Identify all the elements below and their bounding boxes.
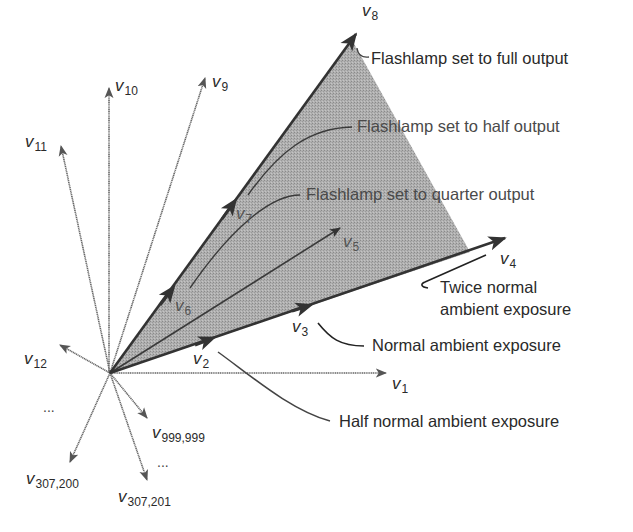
label-v8: v8 <box>362 2 378 22</box>
label-v1: v1 <box>392 375 408 395</box>
label-v2: v2 <box>193 350 209 370</box>
annotation-normal: Normal ambient exposure <box>372 335 561 356</box>
annotation-twice-normal-line1: Twice normal <box>440 277 537 298</box>
label-v5: v5 <box>343 233 359 253</box>
annotation-twice-normal-line2: ambient exposure <box>440 299 571 320</box>
ellipsis-left: ... <box>43 400 55 414</box>
label-v6: v6 <box>175 297 191 317</box>
normal-leader <box>318 323 364 346</box>
annotation-half-normal: Half normal ambient exposure <box>339 411 559 432</box>
label-v307201: v307,201 <box>118 488 171 508</box>
label-v11: v11 <box>25 133 47 153</box>
label-v4: v4 <box>500 250 516 270</box>
label-v3: v3 <box>292 318 308 338</box>
label-v7: v7 <box>236 205 252 225</box>
label-v12: v12 <box>24 350 47 370</box>
vector-v12 <box>60 345 110 373</box>
ellipsis-bottom: ... <box>157 455 169 469</box>
label-v10: v10 <box>115 77 138 97</box>
annotation-quarter-output: Flashlamp set to quarter output <box>306 184 534 205</box>
label-v9: v9 <box>212 73 228 93</box>
annotation-half-output: Flashlamp set to half output <box>357 116 560 137</box>
vector-v11 <box>61 146 110 373</box>
annotation-full-output: Flashlamp set to full output <box>371 48 568 69</box>
vector-v307201 <box>110 373 147 480</box>
vector-v307200 <box>70 373 110 462</box>
label-v307200: v307,200 <box>26 470 79 490</box>
vector-diagram <box>0 0 633 532</box>
vector-v999999 <box>110 373 147 418</box>
half-normal-leader <box>218 352 330 421</box>
label-v999999: v999,999 <box>152 424 205 444</box>
